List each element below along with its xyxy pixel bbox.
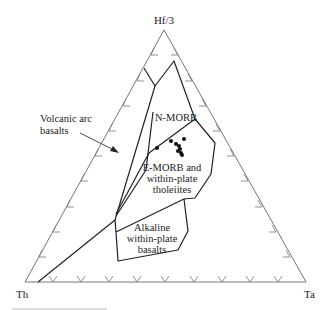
- alkaline-label-2: within-plate: [127, 233, 178, 244]
- n-morb-label: N-MORB: [155, 112, 197, 123]
- volcanic-arc-arrow: [80, 133, 119, 153]
- e-morb-label-3: tholeiites: [153, 184, 192, 195]
- connector-line: [115, 220, 116, 232]
- apex-top-label: Hf/3: [154, 14, 175, 26]
- alkaline-label-1: Alkaline: [134, 222, 170, 233]
- alkaline-label-3: basalts: [138, 244, 167, 255]
- e-morb-label-2: within-plate: [147, 173, 198, 184]
- e-morb-label-1: E-MORB and: [143, 162, 202, 173]
- right-ticks: [171, 48, 290, 257]
- bottom-ticks: [49, 276, 282, 282]
- ternary-diagram: Hf/3 Th Ta Volcanic arc basalts N-MORB E…: [0, 0, 326, 310]
- apex-left-label: Th: [16, 288, 29, 300]
- volcanic-arc-label-2: basalts: [40, 125, 69, 136]
- apex-right-label: Ta: [304, 288, 315, 300]
- volcanic-arc-label-1: Volcanic arc: [40, 113, 92, 124]
- data-points: [155, 137, 186, 157]
